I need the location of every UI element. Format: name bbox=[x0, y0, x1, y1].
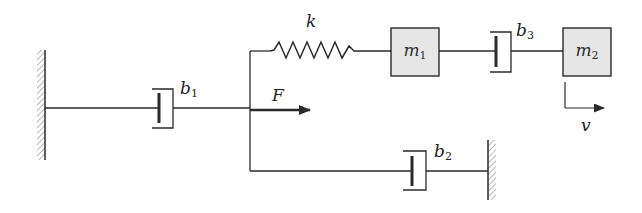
mass-label-m2: m2 bbox=[563, 42, 611, 61]
damper-b3-sub: 3 bbox=[527, 29, 534, 42]
damper-b2-base: b bbox=[434, 141, 445, 161]
left-wall-icon bbox=[37, 50, 45, 160]
damper-label-b1: b1 bbox=[180, 80, 198, 99]
velocity-label-text: v bbox=[581, 115, 591, 135]
velocity-label-v: v bbox=[581, 117, 591, 134]
mass-label-m1: m1 bbox=[391, 42, 439, 61]
damper-b3-base: b bbox=[516, 20, 527, 40]
velocity-arrow-icon bbox=[565, 82, 604, 108]
force-label-F: F bbox=[272, 87, 284, 104]
damper-b3-icon bbox=[439, 32, 563, 72]
damper-b2-sub: 2 bbox=[445, 150, 452, 163]
spring-label-k: k bbox=[306, 13, 316, 30]
damper-b1-base: b bbox=[180, 78, 191, 98]
damper-b1-sub: 1 bbox=[191, 87, 198, 100]
damper-b2-icon bbox=[250, 151, 488, 190]
mass-m2-sub: 2 bbox=[592, 49, 599, 62]
mass-m1-sub: 1 bbox=[420, 49, 427, 62]
damper-label-b2: b2 bbox=[434, 143, 452, 162]
mass-m1-base: m bbox=[403, 40, 419, 60]
diagram-drawing bbox=[0, 0, 642, 213]
damper-label-b3: b3 bbox=[516, 22, 534, 41]
mechanical-system-diagram: k b1 F m1 b3 m2 v b2 bbox=[0, 0, 642, 213]
damper-b1-icon bbox=[152, 89, 250, 128]
mass-m2-base: m bbox=[575, 40, 591, 60]
spring-label-text: k bbox=[306, 11, 316, 31]
force-label-text: F bbox=[272, 85, 284, 105]
right-wall-icon bbox=[488, 140, 496, 200]
spring-k-icon bbox=[250, 42, 391, 58]
